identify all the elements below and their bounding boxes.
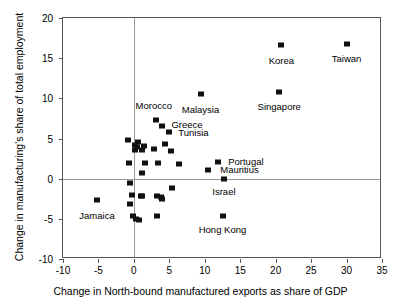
data-point-label-morocco: Morocco xyxy=(136,101,172,111)
data-point xyxy=(142,161,148,166)
x-axis-tick xyxy=(347,259,348,263)
y-axis-tick xyxy=(59,139,63,140)
x-axis-tick-label: 35 xyxy=(376,265,387,276)
data-point xyxy=(126,161,132,166)
y-axis-title: Change in manufacturing's share of total… xyxy=(13,12,25,262)
data-point xyxy=(155,161,161,166)
data-point-korea xyxy=(278,43,284,48)
y-axis-tick xyxy=(59,179,63,180)
data-point-label-tunisia: Tunisia xyxy=(178,128,208,138)
data-point-label-jamaica: Jamaica xyxy=(79,211,114,221)
x-axis-tick-label: 5 xyxy=(167,265,173,276)
data-point xyxy=(129,192,135,197)
plot-area: -10-505101520253035-10-505101520TaiwanKo… xyxy=(62,17,381,258)
data-point xyxy=(139,194,145,199)
scatter-chart-figure: -10-505101520253035-10-505101520TaiwanKo… xyxy=(0,0,401,307)
x-axis-tick xyxy=(311,259,312,263)
data-point-hong-kong xyxy=(220,213,226,218)
data-point-label-korea: Korea xyxy=(269,56,294,66)
x-axis-tick-label: 0 xyxy=(131,265,137,276)
data-point-israel xyxy=(221,176,227,181)
x-axis-tick-label: 10 xyxy=(199,265,210,276)
data-point xyxy=(151,146,157,151)
data-point-tunisia xyxy=(166,130,172,135)
y-axis-tick-label: 0 xyxy=(47,173,53,184)
data-point-label-singapore: Singapore xyxy=(258,102,301,112)
x-axis-tick xyxy=(169,259,170,263)
y-axis-tick-label: 20 xyxy=(42,13,53,24)
x-axis-tick xyxy=(205,259,206,263)
data-point-label-taiwan: Taiwan xyxy=(332,54,362,64)
y-axis-tick xyxy=(59,18,63,19)
y-axis-tick-label: 10 xyxy=(42,93,53,104)
x-axis-tick-label: 25 xyxy=(306,265,317,276)
data-point xyxy=(132,147,138,152)
x-axis-tick xyxy=(98,259,99,263)
data-point xyxy=(127,180,133,185)
y-axis-tick-label: 5 xyxy=(47,133,53,144)
y-axis-tick xyxy=(59,219,63,220)
x-axis-tick-label: -5 xyxy=(94,265,103,276)
y-axis-tick-label: -5 xyxy=(44,213,53,224)
data-point xyxy=(159,196,165,201)
data-point xyxy=(136,217,142,222)
x-axis-tick xyxy=(63,259,64,263)
data-point xyxy=(169,185,175,190)
x-axis-tick-label: 20 xyxy=(270,265,281,276)
data-point-label-israel: Israel xyxy=(212,187,235,197)
data-point xyxy=(139,147,145,152)
x-axis-tick-label: 15 xyxy=(235,265,246,276)
data-point-singapore xyxy=(276,89,282,94)
data-point-morocco xyxy=(153,118,159,123)
x-axis-tick xyxy=(276,259,277,263)
data-point xyxy=(176,162,182,167)
data-point xyxy=(125,138,131,143)
x-axis-tick xyxy=(134,259,135,263)
x-axis-title: Change in North-bound manufactured expor… xyxy=(0,285,401,297)
data-point-mauritius xyxy=(205,167,211,172)
data-point xyxy=(168,149,174,154)
data-point xyxy=(154,213,160,218)
data-point xyxy=(139,171,145,176)
x-axis-tick xyxy=(382,259,383,263)
data-point xyxy=(162,142,168,147)
y-axis-tick-label: -10 xyxy=(39,254,53,265)
y-axis-tick xyxy=(59,98,63,99)
x-axis-tick-label: -10 xyxy=(56,265,70,276)
data-point-label-mauritius: Mauritius xyxy=(220,165,259,175)
data-point xyxy=(127,201,133,206)
y-axis-tick xyxy=(59,259,63,260)
data-point-taiwan xyxy=(344,41,350,46)
x-axis-tick xyxy=(240,259,241,263)
data-point-label-hong-kong: Hong Kong xyxy=(199,225,247,235)
x-axis-tick-label: 30 xyxy=(341,265,352,276)
data-point-greece xyxy=(159,123,165,128)
y-axis-tick xyxy=(59,58,63,59)
data-point xyxy=(132,142,138,147)
data-point-label-malaysia: Malaysia xyxy=(182,105,220,115)
y-axis-tick-label: 15 xyxy=(42,53,53,64)
data-point-malaysia xyxy=(198,92,204,97)
data-point-jamaica xyxy=(94,198,100,203)
